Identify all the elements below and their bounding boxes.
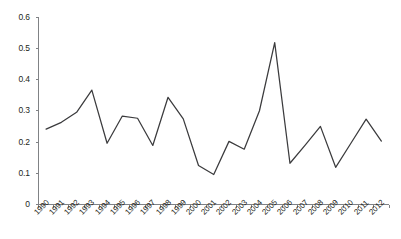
y-axis [36, 17, 39, 205]
y-tick-label: 0.1 [4, 169, 30, 178]
y-tick-label: 0.6 [4, 13, 30, 22]
line-chart: 00.10.20.30.40.50.6 19901991199219931994… [0, 0, 401, 239]
y-tick-label: 0.4 [4, 75, 30, 84]
y-tick-label: 0.2 [4, 138, 30, 147]
data-series-line [46, 43, 381, 175]
y-tick-label: 0 [4, 200, 30, 209]
y-tick-label: 0.5 [4, 44, 30, 53]
y-tick-label: 0.3 [4, 106, 30, 115]
